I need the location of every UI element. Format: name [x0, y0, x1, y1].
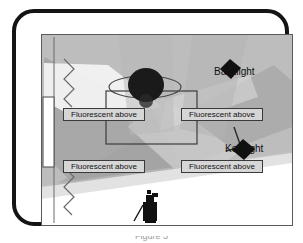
fixture-label-bottom-left[interactable]: Fluorescent above — [63, 160, 145, 173]
key-light-label: Key light — [225, 143, 263, 155]
figure-caption: Figure 3 — [0, 236, 303, 241]
window-panel — [43, 97, 54, 167]
studio-lighting-figure: Fluorescent above Fluorescent above Fluo… — [0, 0, 303, 243]
studio-scene-graphic — [42, 35, 292, 225]
figure-caption-strip: Figure 3 — [0, 236, 303, 243]
fixture-label-top-left[interactable]: Fluorescent above — [63, 108, 145, 121]
diagram-outer-frame: Fluorescent above Fluorescent above Fluo… — [12, 9, 289, 226]
studio-floorplan-area: Fluorescent above Fluorescent above Fluo… — [41, 34, 293, 226]
fixture-label-bottom-right[interactable]: Fluorescent above — [181, 160, 263, 173]
backlight-label: Backlight — [214, 66, 255, 78]
fixture-label-top-right[interactable]: Fluorescent above — [181, 108, 263, 121]
subject-body — [139, 94, 153, 108]
